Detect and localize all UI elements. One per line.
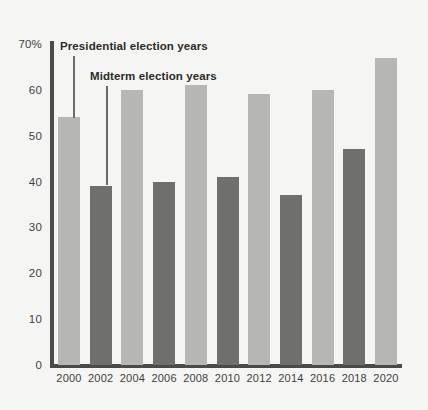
midterm-annotation-label: Midterm election years	[90, 70, 217, 82]
y-tick-label: 50	[0, 130, 42, 142]
bar-2010	[217, 177, 239, 365]
y-tick-label: 70%	[0, 38, 42, 50]
bar-2004	[121, 90, 143, 365]
bar-2008	[185, 85, 207, 365]
bar-2016	[312, 90, 334, 365]
y-tick-label: 40	[0, 176, 42, 188]
presidential-annotation-label: Presidential election years	[60, 40, 208, 52]
bar-2020	[375, 58, 397, 365]
bar-2014	[280, 195, 302, 365]
bar-2012	[248, 94, 270, 365]
plot-area: 70%6050403020100 20002002200420062008201…	[0, 0, 428, 410]
y-tick-label: 0	[0, 359, 42, 371]
bar-2018	[343, 149, 365, 365]
y-tick-label: 30	[0, 221, 42, 233]
bar-2000	[58, 117, 80, 365]
y-tick-label: 60	[0, 84, 42, 96]
bar-series-layer	[54, 0, 402, 410]
bar-chart: 70%6050403020100 20002002200420062008201…	[0, 0, 428, 410]
presidential-annotation-leader-line	[73, 56, 75, 118]
bar-2006	[153, 182, 175, 365]
y-tick-label: 20	[0, 267, 42, 279]
midterm-annotation-leader-line	[106, 86, 108, 185]
bar-2002	[90, 186, 112, 365]
y-tick-label: 10	[0, 313, 42, 325]
x-tick-label: 2020	[363, 372, 409, 384]
